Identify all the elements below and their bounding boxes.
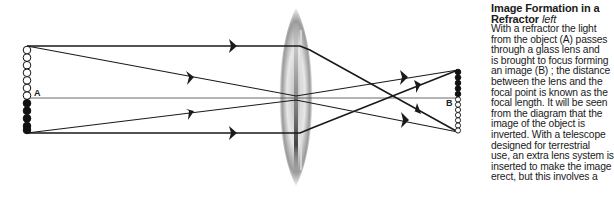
caption: Image Formation in a Refractor left With…: [491, 0, 614, 183]
light-rays: [27, 46, 458, 133]
refractor-diagram: A B: [0, 0, 480, 201]
caption-line: inverted. With a telescope: [491, 130, 614, 141]
caption-line: between the lens and the: [491, 77, 614, 88]
object-label: A: [34, 88, 41, 98]
image-b: [455, 69, 461, 133]
caption-line: erect, but this involves a: [491, 172, 614, 183]
image-label: B: [446, 98, 453, 108]
caption-body: With a refractor the light from the obje…: [491, 24, 614, 183]
convex-lens: [280, 8, 313, 186]
caption-line: With a refractor the light: [491, 24, 614, 35]
object-a: [23, 46, 31, 134]
caption-title: Image Formation in a Refractor left: [491, 3, 614, 24]
